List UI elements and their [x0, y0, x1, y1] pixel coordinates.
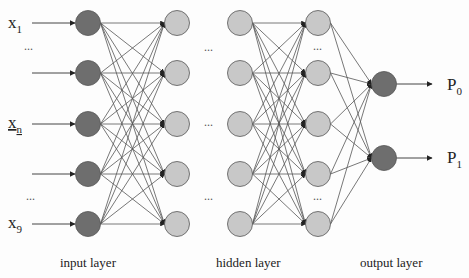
input-label-x9: x9 [8, 213, 23, 235]
hidden-node [228, 112, 253, 137]
hidden-ellipsis: ... [313, 39, 322, 53]
nodes [76, 11, 397, 237]
hidden-node [228, 162, 253, 187]
hidden-node [228, 212, 253, 237]
neural-network-diagram: x1 ... xn ... x9 ... ... ... ... ... P0 … [0, 0, 469, 278]
input-node [76, 112, 101, 137]
hidden-node [165, 112, 190, 137]
output-label-p0: P0 [447, 75, 462, 97]
output-node [372, 146, 397, 171]
hidden-ellipsis: ... [313, 189, 322, 203]
hidden-node [306, 61, 331, 86]
input-label-xn: xn [8, 113, 23, 135]
hidden-ellipsis: ... [204, 189, 213, 203]
hidden-node [306, 162, 331, 187]
output-label-p1: P1 [447, 148, 462, 170]
output-node [372, 72, 397, 97]
hidden-layer-label: hidden layer [216, 255, 281, 270]
input-layer-label: input layer [60, 255, 117, 270]
network-canvas: x1 ... xn ... x9 ... ... ... ... ... P0 … [0, 0, 469, 278]
hidden-node [165, 162, 190, 187]
hidden-node [165, 11, 190, 36]
input-node [76, 162, 101, 187]
input-ellipsis: ... [24, 39, 33, 53]
hidden-node [228, 11, 253, 36]
hidden-ellipsis: ... [204, 115, 213, 129]
hidden-node [306, 212, 331, 237]
input-node [76, 212, 101, 237]
input-node [76, 11, 101, 36]
hidden-node [306, 11, 331, 36]
output-layer-label: output layer [360, 255, 423, 270]
hidden-node [228, 61, 253, 86]
input-ellipsis: ... [26, 189, 35, 203]
hidden-node [165, 212, 190, 237]
hidden-node [165, 61, 190, 86]
input-label-x1: x1 [8, 13, 22, 35]
hidden-node [306, 112, 331, 137]
input-node [76, 61, 101, 86]
hidden-ellipsis: ... [204, 40, 213, 54]
